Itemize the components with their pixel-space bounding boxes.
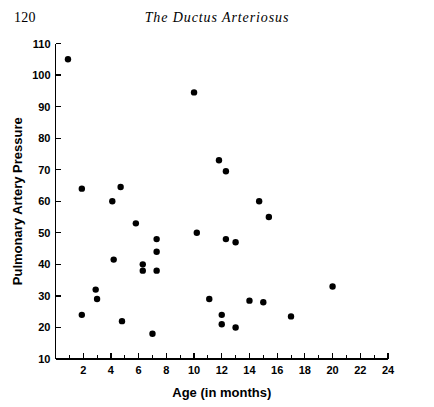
scatter-point [92,286,98,292]
x-tick-label: 12 [216,364,228,376]
x-axis-ticks: 24681012141618202224 [69,353,395,376]
scatter-point [329,283,335,289]
scatter-point [140,261,146,267]
y-axis-title: Pulmonary Artery Pressure [10,117,25,285]
scatter-point [223,236,229,242]
y-axis-ticks: 102030405060708090100110 [32,38,60,366]
y-tick-label: 40 [38,258,50,270]
scatter-point [232,239,238,245]
data-points [65,56,336,337]
scatter-point [232,324,238,330]
scatter-point [206,296,212,302]
scatter-point [191,89,197,95]
scatter-point [266,214,272,220]
scatter-point [153,236,159,242]
x-axis-title: Age (in months) [172,385,271,400]
x-tick-label: 2 [80,364,86,376]
y-tick-label: 100 [32,69,50,81]
y-tick-label: 60 [38,195,50,207]
scatter-point [219,321,225,327]
scatter-point [260,299,266,305]
scatter-plot-figure: 102030405060708090100110 246810121416182… [0,0,434,407]
x-tick-label: 20 [326,364,338,376]
y-tick-label: 90 [38,101,50,113]
scatter-point [216,157,222,163]
y-tick-label: 30 [38,290,50,302]
scatter-point [153,249,159,255]
scatter-point [79,312,85,318]
y-tick-label: 70 [38,164,50,176]
y-tick-label: 110 [33,38,51,50]
plot-canvas: 102030405060708090100110 246810121416182… [0,0,434,407]
scatter-point [117,184,123,190]
scatter-point [133,220,139,226]
x-tick-label: 8 [163,364,169,376]
scatter-point [219,312,225,318]
scatter-point [153,267,159,273]
x-tick-label: 22 [354,364,366,376]
y-tick-label: 50 [38,227,50,239]
scatter-point [65,56,71,62]
y-tick-label: 80 [38,132,50,144]
x-tick-label: 24 [382,364,395,376]
scatter-point [119,318,125,324]
scatter-point [94,296,100,302]
scatter-point [288,313,294,319]
scatter-point [79,185,85,191]
scatter-point [256,198,262,204]
scatter-point [246,297,252,303]
scatter-point [110,256,116,262]
x-tick-label: 14 [243,364,256,376]
y-tick-label: 20 [38,321,50,333]
x-tick-label: 18 [299,364,311,376]
x-tick-label: 10 [188,364,200,376]
scatter-point [223,168,229,174]
scatter-point [109,198,115,204]
scatter-point [149,331,155,337]
x-tick-label: 16 [271,364,283,376]
scatter-point [194,230,200,236]
y-tick-label: 10 [38,353,50,365]
x-tick-label: 6 [136,364,142,376]
scatter-point [140,267,146,273]
x-tick-label: 4 [108,364,115,376]
